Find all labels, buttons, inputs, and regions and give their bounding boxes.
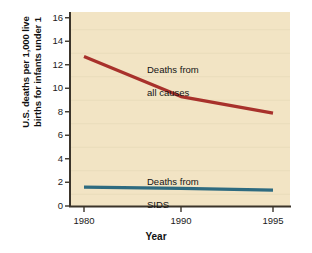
chart-figure: 16 14 12 10 8 6 4 2 0 1980 1990 1995 U.S… — [0, 0, 312, 253]
series-annotation-sids: Deaths from SIDS — [147, 164, 199, 222]
series-annotation-all-causes-line1: Deaths from — [147, 64, 199, 76]
x-tick-label: 1995 — [262, 216, 283, 226]
series-annotation-sids-line2: SIDS — [147, 199, 199, 211]
y-axis-title-line2: births for infants under 1 — [32, 17, 45, 127]
series-annotation-all-causes: Deaths from all causes — [147, 52, 199, 110]
y-axis-title: U.S. deaths per 1,000 live births for in… — [15, 0, 49, 167]
x-tick-label: 1980 — [73, 216, 94, 226]
x-axis-title: Year — [0, 231, 312, 242]
y-axis-title-line1: U.S. deaths per 1,000 live — [20, 16, 33, 127]
series-annotation-all-causes-line2: all causes — [147, 87, 199, 99]
series-annotation-sids-line1: Deaths from — [147, 176, 199, 188]
